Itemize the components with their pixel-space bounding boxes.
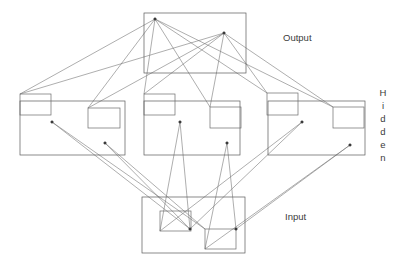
connection-line [224, 33, 267, 93]
hidden-node [301, 121, 304, 124]
hidden-label-char: i [376, 99, 390, 112]
unit-boxes [20, 93, 364, 249]
hidden-node [226, 142, 229, 145]
input-node [189, 228, 192, 231]
hidden-unit-box [88, 108, 120, 128]
hidden-node [104, 142, 107, 145]
hidden-label-char: d [376, 125, 390, 138]
connection-line [20, 33, 224, 94]
connection-line [160, 122, 180, 231]
hidden-label-char: n [376, 151, 390, 164]
hidden-label-char: e [376, 138, 390, 151]
input-layer-label: Input [285, 212, 306, 222]
layer-group-boxes [20, 13, 365, 253]
output-node [154, 18, 157, 21]
hidden-label-char: d [376, 112, 390, 125]
hidden-label-char: H [376, 86, 390, 99]
connection-line [105, 143, 205, 229]
output-node [223, 32, 226, 35]
hidden-unit-box [144, 94, 175, 115]
connection-line [52, 122, 190, 229]
connection-line [224, 33, 333, 107]
hidden-unit-box [210, 107, 241, 128]
connection-line [20, 19, 155, 94]
hidden-unit-box [267, 93, 298, 115]
input-node [235, 228, 238, 231]
hidden-node [51, 121, 54, 124]
hidden-layer-label: Hidden [376, 86, 390, 164]
connection-line [155, 19, 267, 93]
connection-line [52, 122, 205, 229]
connection-line [180, 122, 190, 229]
output-layer-label: Output [283, 33, 312, 43]
hidden-unit-box [20, 94, 51, 115]
connection-line [205, 143, 227, 249]
connection-line [105, 143, 190, 229]
connection-line [144, 33, 224, 94]
network-canvas [0, 0, 402, 265]
connection-line [210, 33, 224, 107]
hidden-node [179, 121, 182, 124]
hidden-unit-box [333, 107, 364, 128]
neural-network-diagram: Output Hidden Input [0, 0, 402, 265]
hidden-node [349, 144, 352, 147]
